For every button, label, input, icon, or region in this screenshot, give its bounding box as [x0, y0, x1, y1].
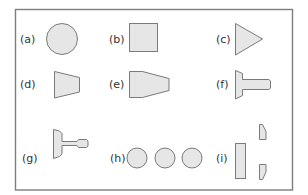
panel-g-label: (g) — [22, 152, 38, 165]
panel-e-label: (e) — [109, 78, 124, 91]
panel-b-label: (b) — [109, 33, 125, 46]
clipped-block-top-shape — [260, 125, 267, 140]
panel-h: (h) — [110, 148, 202, 168]
tall-rectangle-shape — [236, 144, 246, 179]
clipped-block-bottom-shape — [260, 165, 267, 180]
panel-e: (e) — [109, 72, 169, 98]
panel-b: (b) — [109, 24, 158, 52]
panel-d: (d) — [20, 72, 80, 99]
panel-a: (a) — [20, 24, 78, 55]
flanged-shaft-shape — [54, 130, 89, 159]
square-shape — [130, 24, 158, 52]
panel-i-label: (i) — [216, 152, 228, 165]
tapered-hexagon-shape — [130, 72, 170, 98]
panel-f-label: (f) — [216, 78, 228, 91]
trapezoid-shape — [55, 72, 80, 99]
t-bar-shape — [236, 71, 271, 100]
shapes-diagram: (a) (b) (c) (d) (e) (f) (g) (h) (i) — [0, 0, 308, 195]
circle-shape-1 — [127, 148, 147, 168]
panel-h-label: (h) — [110, 152, 126, 165]
panel-c-label: (c) — [216, 33, 231, 46]
triangle-shape — [236, 24, 263, 56]
panel-d-label: (d) — [20, 78, 36, 91]
panel-i: (i) — [216, 125, 266, 180]
circle-shape-3 — [182, 148, 202, 168]
circle-shape — [47, 24, 78, 55]
panel-c: (c) — [216, 24, 263, 56]
panel-a-label: (a) — [20, 33, 35, 46]
panel-f: (f) — [216, 71, 271, 100]
circle-shape-2 — [155, 148, 175, 168]
panel-g: (g) — [22, 130, 88, 166]
